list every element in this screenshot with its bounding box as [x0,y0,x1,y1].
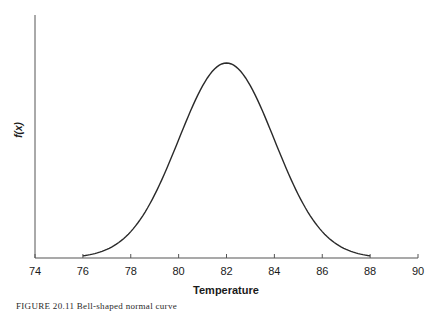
x-tick-label: 88 [364,265,376,277]
figure-caption: FIGURE 20.11 Bell-shaped normal curve [16,301,177,311]
x-tick-label: 76 [77,265,89,277]
x-tick-label: 80 [173,265,185,277]
y-axis-title: f(x) [13,122,24,138]
normal-curve [83,63,370,256]
x-tick-label: 90 [412,265,424,277]
x-axis-title: Temperature [193,284,259,296]
chart-canvas: 747678808284868890 Temperature f(x) [0,0,437,300]
x-tick-label: 84 [268,265,280,277]
x-tick-label: 78 [125,265,137,277]
x-axis-tick-labels: 747678808284868890 [29,265,424,277]
x-tick-label: 86 [316,265,328,277]
x-tick-label: 82 [220,265,232,277]
x-tick-label: 74 [29,265,41,277]
